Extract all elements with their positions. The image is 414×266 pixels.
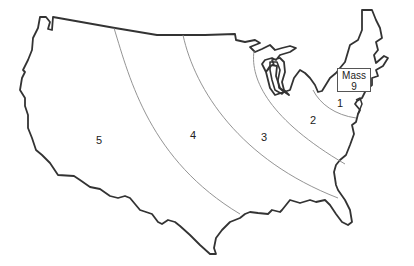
zone-label-5: 5 [96, 134, 102, 146]
map-svg [0, 0, 414, 266]
us-zone-map: 1 2 3 4 5 Mass 9 [0, 0, 414, 266]
mass-callout-value: 9 [338, 81, 370, 92]
us-outline [20, 10, 388, 254]
zone-label-4: 4 [190, 129, 196, 141]
zone-label-2: 2 [310, 114, 316, 126]
zone-label-3: 3 [261, 131, 267, 143]
mass-callout-name: Mass [338, 70, 370, 81]
zone-label-1: 1 [337, 97, 343, 109]
zone-line-4-5 [114, 28, 240, 214]
zone-line-1-2 [313, 90, 356, 118]
zone-line-2-3 [254, 51, 345, 164]
mass-callout-box: Mass 9 [337, 68, 371, 92]
